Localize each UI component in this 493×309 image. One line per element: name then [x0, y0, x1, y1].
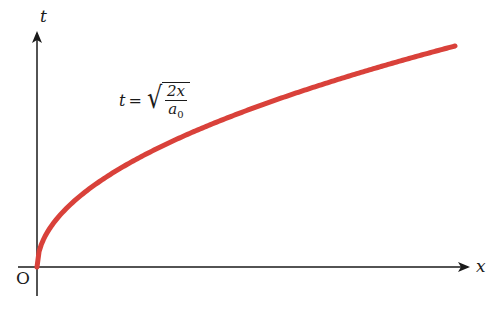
y-axis-label: t — [40, 6, 47, 26]
x-axis-label: x — [476, 256, 486, 276]
denominator-subscript: 0 — [177, 109, 183, 120]
formula-equals: = — [128, 91, 141, 110]
plot-canvas — [0, 0, 493, 309]
denominator: a0 — [168, 101, 183, 123]
denominator-base: a — [168, 100, 177, 118]
fraction: 2x a0 — [162, 82, 190, 123]
square-root: √ 2x a0 — [145, 78, 190, 123]
origin-label: O — [16, 268, 30, 288]
numerator: 2x — [165, 83, 187, 101]
formula-lhs: t — [119, 91, 125, 110]
radical-icon: √ — [147, 78, 162, 123]
sqrt-curve — [37, 46, 455, 267]
curve-formula: t = √ 2x a0 — [119, 78, 190, 123]
